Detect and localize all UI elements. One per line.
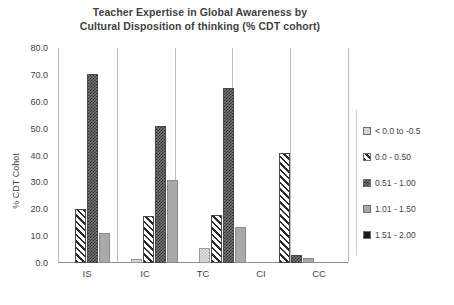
legend-swatch-icon xyxy=(363,127,371,135)
legend-swatch-icon xyxy=(363,231,371,239)
bar-chart: Teacher Expertise in Global Awareness by… xyxy=(0,0,454,305)
y-axis-tick-label: 20.0 xyxy=(30,204,48,214)
legend-item-4[interactable]: 1.01 - 1.50 xyxy=(363,196,451,222)
chart-title-line-2: Cultural Disposition of thinking (% CDT … xyxy=(55,19,345,33)
legend-swatch-icon xyxy=(363,179,371,187)
legend-item-label: 1.01 - 1.50 xyxy=(375,204,416,214)
bar-ic-series-2 xyxy=(143,216,154,263)
legend-item-3[interactable]: 0.51 - 1.00 xyxy=(363,170,451,196)
legend-item-label: 1.51 - 2.00 xyxy=(375,230,416,240)
chart-title: Teacher Expertise in Global Awareness by… xyxy=(55,5,345,33)
legend-item-1[interactable]: < 0.0 to -0.5 xyxy=(363,118,451,144)
legend-item-label: 0.51 - 1.00 xyxy=(375,178,416,188)
bar-tc-series-3 xyxy=(223,88,234,263)
bar-ci-series-2 xyxy=(279,153,290,263)
legend-item-label: < 0.0 to -0.5 xyxy=(375,126,421,136)
x-axis-label-tc: TC xyxy=(174,268,232,286)
legend-item-label: 0.0 - 0.50 xyxy=(375,152,411,162)
y-axis-tick-label: 40.0 xyxy=(30,151,48,161)
y-axis-tick-label: 10.0 xyxy=(30,231,48,241)
y-axis-tick-label: 50.0 xyxy=(30,124,48,134)
bar-tc-series-4 xyxy=(235,227,246,263)
legend-item-5[interactable]: 1.51 - 2.00 xyxy=(363,222,451,248)
bar-ci-series-4 xyxy=(303,258,314,263)
bar-ic-series-1 xyxy=(131,259,142,263)
y-axis-tick-label: 80.0 xyxy=(30,43,48,53)
bar-group-ci xyxy=(262,48,330,263)
bar-tc-series-1 xyxy=(199,248,210,263)
bar-ic-series-4 xyxy=(167,180,178,263)
bar-group-ic xyxy=(126,48,194,263)
x-axis-label-ci: CI xyxy=(232,268,290,286)
x-axis-label-cc: CC xyxy=(290,268,348,286)
x-axis-label-is: IS xyxy=(58,268,116,286)
chart-title-line-1: Teacher Expertise in Global Awareness by xyxy=(55,5,345,19)
y-axis: % CDT Cohot 0.010.020.030.040.050.060.07… xyxy=(0,48,52,263)
y-axis-tick-label: 0.0 xyxy=(35,258,48,268)
bar-group-is xyxy=(58,48,126,263)
bar-group-tc xyxy=(194,48,262,263)
y-axis-tick-label: 70.0 xyxy=(30,70,48,80)
legend-item-2[interactable]: 0.0 - 0.50 xyxy=(363,144,451,170)
bar-is-series-4 xyxy=(99,233,110,263)
legend-swatch-icon xyxy=(363,205,371,213)
bar-tc-series-2 xyxy=(211,215,222,263)
legend-swatch-icon xyxy=(363,153,371,161)
legend-divider xyxy=(356,110,357,255)
bar-groups xyxy=(58,48,348,263)
y-axis-tick-label: 30.0 xyxy=(30,177,48,187)
x-axis-label-ic: IC xyxy=(116,268,174,286)
bar-ic-series-3 xyxy=(155,126,166,263)
bar-is-series-2 xyxy=(75,209,86,263)
chart-legend: < 0.0 to -0.50.0 - 0.500.51 - 1.001.01 -… xyxy=(363,118,451,248)
bar-ci-series-3 xyxy=(291,255,302,263)
plot-area-wrapper xyxy=(58,48,348,263)
y-axis-title: % CDT Cohot xyxy=(11,141,21,221)
bar-is-series-3 xyxy=(87,74,98,263)
x-axis-labels: ISICTCCICC xyxy=(58,268,348,286)
y-axis-tick-label: 60.0 xyxy=(30,97,48,107)
